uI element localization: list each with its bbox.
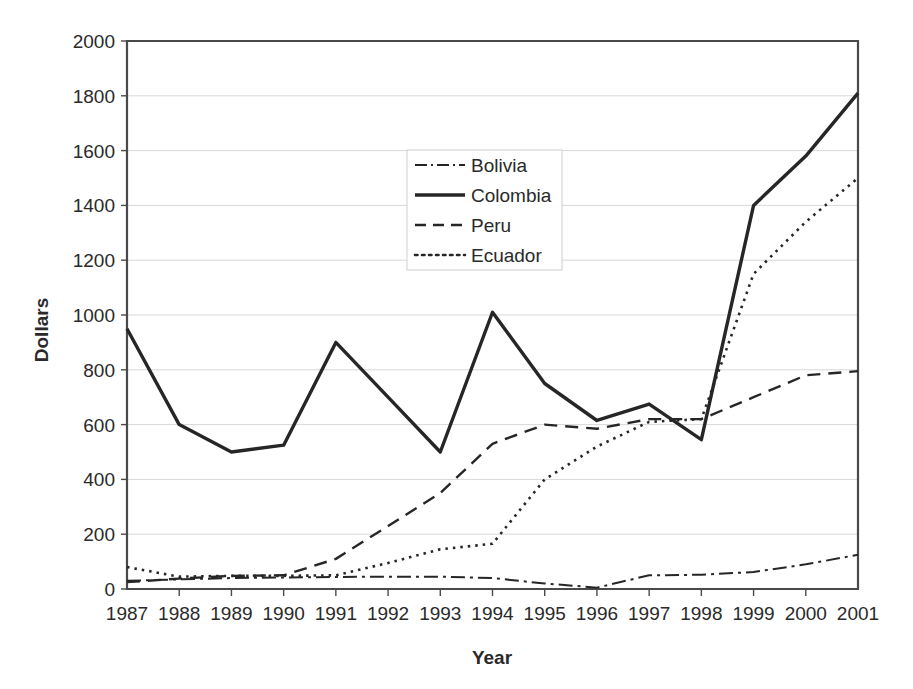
x-tick-label: 1998 — [680, 603, 722, 624]
y-tick-labels-group: 0200400600800100012001400160018002000 — [73, 31, 115, 600]
y-tick-label: 1000 — [73, 305, 115, 326]
chart-canvas: 0200400600800100012001400160018002000 19… — [0, 0, 913, 689]
x-tick-label: 1996 — [576, 603, 618, 624]
x-tick-label: 1995 — [524, 603, 566, 624]
x-tick-label: 1993 — [419, 603, 461, 624]
y-tick-label: 1200 — [73, 250, 115, 271]
x-tick-label: 1991 — [315, 603, 357, 624]
y-tick-label: 1600 — [73, 141, 115, 162]
legend-label-bolivia: Bolivia — [471, 155, 527, 176]
y-tick-label: 1400 — [73, 195, 115, 216]
x-tick-label: 1990 — [263, 603, 305, 624]
x-tick-labels-group: 1987198819891990199119921993199419951996… — [106, 603, 879, 624]
line-chart: 0200400600800100012001400160018002000 19… — [0, 0, 913, 689]
x-tick-label: 1994 — [471, 603, 514, 624]
x-tick-label: 2001 — [837, 603, 879, 624]
y-tick-label: 2000 — [73, 31, 115, 52]
series-line-peru — [127, 371, 858, 582]
y-tick-label: 600 — [83, 415, 115, 436]
x-tick-label: 1987 — [106, 603, 148, 624]
x-axis-title: Year — [472, 647, 513, 668]
y-tick-label: 400 — [83, 469, 115, 490]
y-tick-label: 1800 — [73, 86, 115, 107]
legend-label-peru: Peru — [471, 215, 511, 236]
x-tick-label: 1988 — [158, 603, 200, 624]
y-axis-title: Dollars — [31, 298, 52, 362]
y-tick-label: 0 — [104, 579, 115, 600]
series-line-colombia — [127, 93, 858, 452]
x-tick-label: 1989 — [210, 603, 252, 624]
legend-label-colombia: Colombia — [471, 185, 552, 206]
x-tick-label: 1997 — [628, 603, 670, 624]
y-tick-label: 800 — [83, 360, 115, 381]
y-tick-label: 200 — [83, 524, 115, 545]
x-tick-label: 2000 — [785, 603, 827, 624]
x-tick-label: 1999 — [732, 603, 774, 624]
legend: BoliviaColombiaPeruEcuador — [407, 150, 562, 270]
series-line-bolivia — [127, 555, 858, 588]
x-tick-label: 1992 — [367, 603, 409, 624]
legend-label-ecuador: Ecuador — [471, 245, 542, 266]
